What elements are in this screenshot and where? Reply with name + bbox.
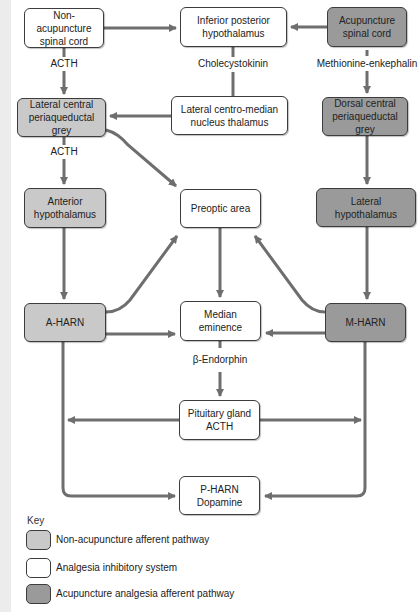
key-swatch-analgesia-inhibitory bbox=[26, 558, 51, 578]
node-anterior-hypothalamus: Anteriorhypothalamus bbox=[24, 188, 106, 228]
node-label: periaqueductal grey bbox=[21, 111, 102, 137]
key-label-analgesia-inhibitory: Analgesia inhibitory system bbox=[56, 562, 177, 574]
node-dorsal-central-periaqueductal-grey: Dorsal centralperiaqueductal grey bbox=[322, 97, 408, 136]
node-m-harn: M-HARN bbox=[325, 303, 406, 342]
node-label: A-HARN bbox=[46, 316, 84, 329]
key-swatch-acupuncture bbox=[26, 584, 51, 604]
node-label: Median eminence bbox=[184, 308, 257, 334]
node-label: Dorsal central bbox=[326, 97, 404, 110]
key-swatch-non-acupuncture bbox=[26, 530, 51, 550]
node-label: P-HARN bbox=[197, 483, 243, 496]
node-preoptic-area: Preoptic area bbox=[180, 189, 261, 228]
node-label: M-HARN bbox=[346, 316, 386, 329]
node-label: Lateral centro-median bbox=[181, 103, 278, 116]
edge-label-beta-endorphin: β-Endorphin bbox=[193, 354, 248, 366]
node-p-harn: P-HARNDopamine bbox=[179, 476, 260, 515]
node-label: Inferior posterior bbox=[197, 14, 270, 27]
node-non-acupuncture-spinal-cord: Non-acupuncturespinal cord bbox=[24, 8, 104, 48]
node-label: hypothalamus bbox=[197, 27, 270, 40]
key-title: Key bbox=[27, 515, 44, 526]
node-label: Anterior bbox=[34, 195, 96, 208]
node-lateral-central-periaqueductal-grey: Lateral centralperiaqueductal grey bbox=[17, 98, 106, 137]
edge-label-methionine-enkephalin: Methionine-enkephalin bbox=[317, 58, 418, 70]
node-label: spinal cord bbox=[28, 35, 100, 48]
node-a-harn: A-HARN bbox=[24, 303, 106, 342]
node-label: spinal cord bbox=[339, 27, 395, 40]
edge-label-acth: ACTH bbox=[50, 146, 77, 158]
node-acupuncture-spinal-cord: Acupuncturespinal cord bbox=[327, 7, 407, 47]
node-inferior-posterior-hypothalamus: Inferior posteriorhypothalamus bbox=[180, 7, 287, 47]
node-pituitary-gland: Pituitary glandACTH bbox=[179, 400, 260, 440]
node-label: periaqueductal grey bbox=[326, 110, 404, 136]
edge-label-cholecystokinin: Cholecystokinin bbox=[198, 58, 268, 70]
node-label: Non-acupuncture bbox=[28, 9, 100, 35]
key-label-non-acupuncture: Non-acupuncture afferent pathway bbox=[56, 534, 209, 546]
node-label: Preoptic area bbox=[191, 202, 250, 215]
node-label: Lateral central bbox=[21, 98, 102, 111]
node-lateral-centro-median-nucleus-thalamus: Lateral centro-mediannucleus thalamus bbox=[171, 96, 288, 135]
node-label: Lateral hypothalamus bbox=[320, 195, 412, 221]
node-label: Pituitary gland bbox=[188, 407, 251, 420]
node-median-eminence: Median eminence bbox=[180, 301, 261, 341]
node-label: nucleus thalamus bbox=[181, 116, 278, 129]
edge-label-acth: ACTH bbox=[50, 58, 77, 70]
key-label-acupuncture: Acupuncture analgesia afferent pathway bbox=[56, 588, 234, 600]
node-label: hypothalamus bbox=[34, 208, 96, 221]
node-lateral-hypothalamus: Lateral hypothalamus bbox=[316, 188, 416, 227]
node-label: Acupuncture bbox=[339, 14, 395, 27]
node-label: Dopamine bbox=[197, 496, 243, 509]
node-label: ACTH bbox=[188, 420, 251, 433]
